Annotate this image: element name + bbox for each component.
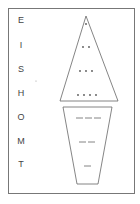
dots-i [82, 46, 90, 48]
morse-cone-diagram [0, 0, 140, 204]
dot-e [85, 23, 87, 25]
dash-trapezoid [63, 107, 112, 184]
dots-h [77, 94, 97, 96]
dot-triangle [60, 16, 118, 101]
dots-s [79, 70, 93, 72]
